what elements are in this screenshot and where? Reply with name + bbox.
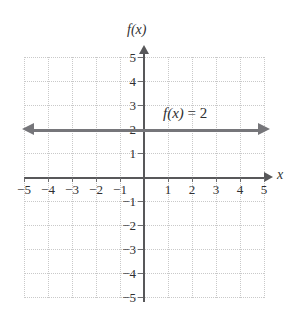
y-tick: [138, 153, 143, 154]
function-arrow-left-icon: [22, 123, 34, 135]
y-tick: [138, 297, 143, 298]
x-tick-label-neg2: −2: [86, 183, 106, 196]
y-axis: [143, 53, 145, 302]
x-tick-label-neg3: −3: [62, 183, 82, 196]
function-line: [33, 129, 261, 132]
x-axis: [24, 177, 268, 179]
function-equation-label: f(x) = 2: [163, 105, 207, 122]
y-tick-label-neg1: −1: [114, 195, 136, 208]
function-arrow-right-icon: [258, 123, 270, 135]
y-tick: [138, 105, 143, 106]
y-tick: [138, 225, 143, 226]
y-tick: [138, 273, 143, 274]
x-tick-label-pos2: 2: [182, 183, 202, 196]
y-tick-label-pos4: 4: [114, 75, 136, 88]
y-tick-label-pos5: 5: [114, 51, 136, 64]
y-tick-label-pos3: 3: [114, 99, 136, 112]
y-tick: [138, 57, 143, 58]
y-tick-label-neg3: −3: [114, 243, 136, 256]
y-axis-arrow-icon: [139, 45, 149, 54]
y-tick: [138, 81, 143, 82]
x-tick-label-pos3: 3: [206, 183, 226, 196]
x-axis-arrow-icon: [264, 172, 273, 182]
y-tick: [138, 201, 143, 202]
y-tick-label-pos1: 1: [114, 147, 136, 160]
graph-figure: −5 −4 −3 −2 −1 1 2 3 4 5 5 4 3 2 1 −1 −2…: [0, 0, 294, 316]
y-tick: [138, 249, 143, 250]
function-equation-lhs: f(x): [163, 105, 184, 121]
x-tick-label-pos4: 4: [230, 183, 250, 196]
y-tick-label-neg5: −5: [114, 291, 136, 304]
x-tick-label-neg5: −5: [14, 183, 34, 196]
x-axis-label: x: [277, 167, 283, 183]
y-axis-label: f(x): [127, 22, 146, 38]
x-tick-label-pos1: 1: [158, 183, 178, 196]
y-tick-label-neg4: −4: [114, 267, 136, 280]
x-tick-label-neg4: −4: [38, 183, 58, 196]
function-equation-rhs: = 2: [184, 105, 207, 121]
x-tick-label-pos5: 5: [254, 183, 274, 196]
y-tick-label-neg2: −2: [114, 219, 136, 232]
